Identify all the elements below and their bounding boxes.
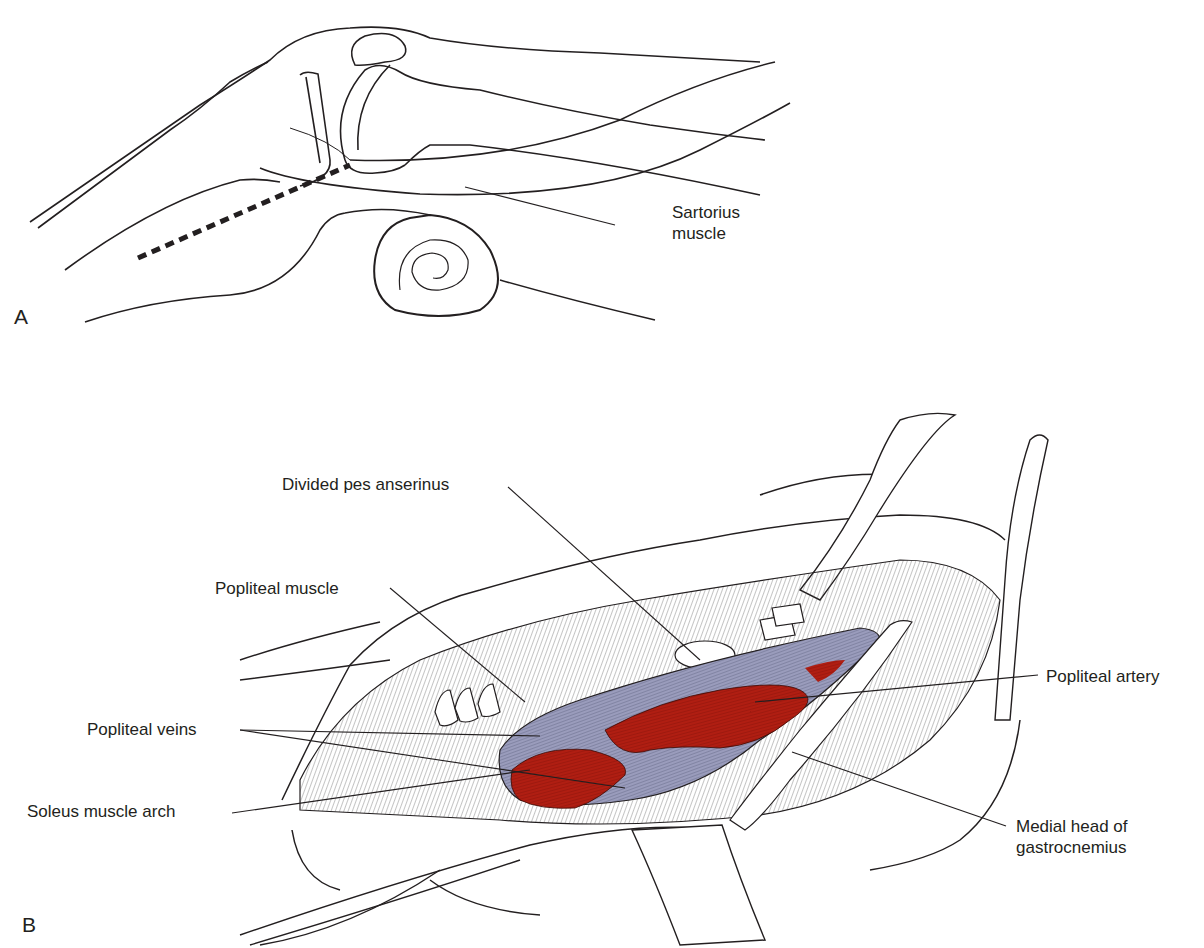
label-soleus-muscle-arch: Soleus muscle arch bbox=[27, 801, 175, 822]
label-medial-head-line1: Medial head of bbox=[1016, 816, 1128, 837]
panel-a-letter: A bbox=[14, 305, 28, 329]
label-divided-pes-anserinus: Divided pes anserinus bbox=[282, 474, 449, 495]
panel-a-knee-drawing bbox=[30, 27, 790, 322]
panel-b-letter: B bbox=[22, 913, 36, 937]
label-sartorius-muscle: Sartorius muscle bbox=[672, 202, 740, 244]
label-medial-head-line2: gastrocnemius bbox=[1016, 837, 1128, 858]
label-popliteal-artery: Popliteal artery bbox=[1046, 666, 1159, 687]
label-sartorius-line1: Sartorius bbox=[672, 202, 740, 223]
label-popliteal-veins: Popliteal veins bbox=[87, 719, 197, 740]
anatomical-illustration bbox=[0, 0, 1204, 948]
label-popliteal-muscle: Popliteal muscle bbox=[215, 578, 339, 599]
label-sartorius-line2: muscle bbox=[672, 223, 740, 244]
label-medial-head-gastrocnemius: Medial head of gastrocnemius bbox=[1016, 816, 1128, 858]
